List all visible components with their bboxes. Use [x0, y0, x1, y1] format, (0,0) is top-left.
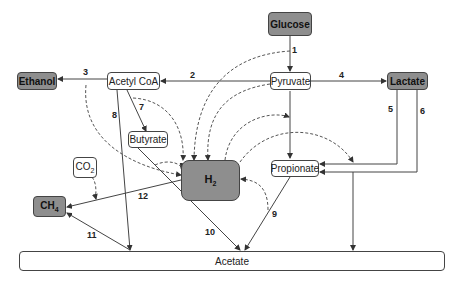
co2-node: CO2 — [73, 157, 97, 178]
edge-label-4: 4 — [339, 70, 344, 80]
butyrate-label: Butyrate — [129, 134, 166, 145]
lactate-label: Lactate — [390, 76, 425, 87]
h2-node: H2 — [181, 160, 240, 201]
co2-base: CO — [76, 161, 91, 172]
h2-label: H2 — [205, 173, 217, 187]
ch4-node: CH4 — [33, 196, 66, 217]
edge-12-line — [67, 180, 181, 207]
ch4-base: CH — [40, 200, 54, 211]
acetyl-coa-node: Acetyl CoA — [107, 72, 160, 90]
ethanol-node: Ethanol — [17, 72, 57, 90]
pathway-diagram-lines — [0, 0, 457, 283]
ethanol-label: Ethanol — [19, 76, 56, 87]
co2-subscript: 2 — [91, 167, 95, 174]
edge-label-10: 10 — [205, 227, 215, 237]
acetyl-coa-label: Acetyl CoA — [109, 76, 158, 87]
edge-11-line — [67, 213, 130, 250]
glucose-node: Glucose — [268, 12, 312, 36]
edge-label-5: 5 — [388, 104, 393, 114]
edge-label-12: 12 — [138, 191, 148, 201]
edge-label-2: 2 — [190, 70, 195, 80]
acetate-node: Acetate — [19, 251, 445, 271]
edge-8-line — [117, 90, 130, 250]
pyruvate-node: Pyruvate — [270, 72, 311, 90]
propionate-label: Propionate — [271, 163, 319, 174]
edge-label-9: 9 — [272, 209, 277, 219]
edge-label-3: 3 — [83, 67, 88, 77]
glucose-label: Glucose — [270, 19, 309, 30]
propionate-node: Propionate — [271, 160, 319, 177]
edge-label-1: 1 — [292, 45, 297, 55]
ch4-subscript: 4 — [55, 206, 59, 213]
butyrate-node: Butyrate — [128, 131, 168, 148]
co2-label: CO2 — [76, 161, 95, 174]
edge-9-line — [245, 177, 290, 250]
edge-label-7: 7 — [139, 102, 144, 112]
edge-label-11: 11 — [87, 230, 97, 240]
h2-base: H — [205, 173, 213, 185]
lactate-node: Lactate — [387, 72, 428, 90]
edge-5-line — [320, 90, 397, 164]
pyruvate-label: Pyruvate — [271, 76, 310, 87]
acetate-label: Acetate — [215, 256, 249, 267]
edge-label-8: 8 — [112, 110, 117, 120]
edge-6-line — [320, 90, 417, 172]
ch4-label: CH4 — [40, 200, 58, 213]
edge-label-6: 6 — [420, 106, 425, 116]
h2-subscript: 2 — [213, 181, 217, 188]
